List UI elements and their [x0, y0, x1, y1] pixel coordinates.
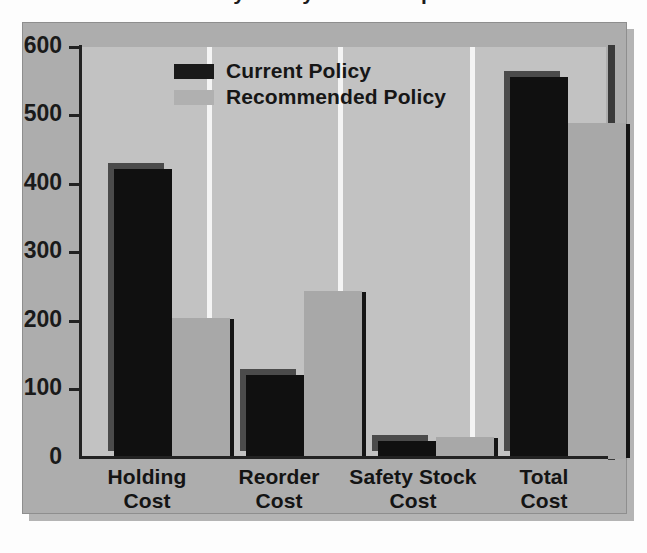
legend-entry-recommended-policy[interactable]: Recommended Policy	[174, 84, 446, 110]
x-axis-line	[79, 456, 608, 459]
y-tick-label-0: 0	[49, 445, 62, 467]
x-category-total-line2: Cost	[478, 489, 610, 513]
y-tick-label-600: 600	[24, 34, 62, 56]
bar-holding-cost-current[interactable]	[114, 169, 172, 459]
y-tick-label-100: 100	[24, 376, 62, 398]
y-tick-200: 200	[69, 320, 82, 323]
category-separator-3	[470, 47, 475, 459]
bar-total-cost-current[interactable]	[510, 77, 568, 459]
bar-reorder-cost-current[interactable]	[246, 375, 304, 459]
bar-holding-cost-recommended[interactable]	[172, 318, 230, 459]
x-category-holding-line1: Holding	[108, 465, 187, 488]
x-category-total-line1: Total	[519, 465, 568, 488]
y-tick-label-200: 200	[24, 308, 62, 330]
x-category-label-reorder-cost: Reorder Cost	[213, 465, 345, 513]
y-tick-label-400: 400	[24, 171, 62, 193]
y-tick-100: 100	[69, 388, 82, 391]
y-tick-500: 500	[69, 114, 82, 117]
x-category-reorder-line2: Cost	[213, 489, 345, 513]
bar-reorder-cost-recommended[interactable]	[304, 291, 362, 459]
x-category-holding-line2: Cost	[81, 489, 213, 513]
x-category-reorder-line1: Reorder	[238, 465, 319, 488]
bar-total-cost-recommended[interactable]	[568, 123, 626, 459]
legend-entry-current-policy[interactable]: Current Policy	[174, 58, 446, 84]
page-title: Inventory Policy Cost Comparison	[0, 0, 647, 5]
x-category-label-safety-stock-cost: Safety Stock Cost	[343, 465, 483, 513]
legend-swatch-current-icon	[174, 64, 214, 79]
x-category-safety-line1: Safety Stock	[349, 465, 476, 488]
legend-label-current-policy: Current Policy	[226, 59, 371, 83]
y-tick-label-500: 500	[24, 102, 62, 124]
y-tick-400: 400	[69, 183, 82, 186]
chart-title-cropped: Inventory Policy Cost Comparison	[0, 0, 647, 20]
x-category-safety-line2: Cost	[343, 489, 483, 513]
y-tick-600: 600	[69, 46, 82, 49]
x-category-label-total-cost: Total Cost	[478, 465, 610, 513]
y-tick-300: 300	[69, 251, 82, 254]
legend-label-recommended-policy: Recommended Policy	[226, 85, 446, 109]
legend: Current Policy Recommended Policy	[174, 58, 446, 110]
y-tick-label-300: 300	[24, 239, 62, 261]
chart-frame: 600 500 400 300 200 100 0 Current Policy	[22, 22, 627, 514]
chart-page: Inventory Policy Cost Comparison	[0, 0, 647, 553]
legend-swatch-recommended-icon	[174, 90, 214, 105]
x-category-label-holding-cost: Holding Cost	[81, 465, 213, 513]
